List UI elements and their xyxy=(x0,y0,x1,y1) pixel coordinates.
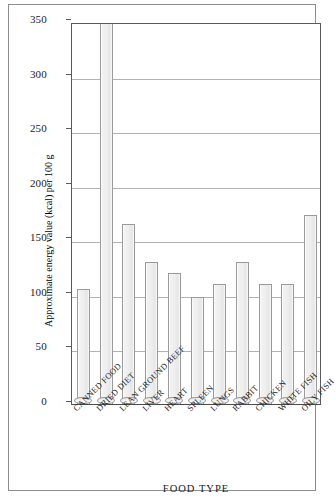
y-axis-tick-label: 300 xyxy=(30,68,47,79)
y-axis-title: Approximate energy value (kcal) per 100 … xyxy=(43,326,54,327)
plot-area xyxy=(71,23,321,405)
x-axis-title: FOOD TYPE xyxy=(71,483,321,494)
bar xyxy=(77,289,90,404)
y-axis-tick-label: 250 xyxy=(30,123,47,134)
figure-frame: Approximate energy value (kcal) per 100 … xyxy=(8,4,316,491)
bar xyxy=(213,284,226,404)
bar-series xyxy=(72,24,320,404)
y-axis-tick-label: 350 xyxy=(30,14,47,25)
bar xyxy=(259,284,272,404)
y-axis-tick xyxy=(66,19,71,20)
y-axis-tick-label: 200 xyxy=(30,177,47,188)
bar xyxy=(168,273,181,404)
bar xyxy=(236,262,249,404)
y-axis-tick-label: 150 xyxy=(30,232,47,243)
y-axis-tick-label: 100 xyxy=(30,286,47,297)
bar xyxy=(100,23,113,404)
y-axis-tick-label: 50 xyxy=(36,341,47,352)
y-axis-title-wrapper: Approximate energy value (kcal) per 100 … xyxy=(43,327,44,328)
y-axis-tick-label: 0 xyxy=(41,396,47,407)
